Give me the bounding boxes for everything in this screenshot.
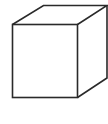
cube-top-face: [13, 6, 108, 25]
cube-right-face: [78, 6, 108, 98]
cube-icon: [0, 0, 108, 124]
cube-front-face: [13, 25, 78, 98]
cube-figure: [0, 0, 108, 124]
